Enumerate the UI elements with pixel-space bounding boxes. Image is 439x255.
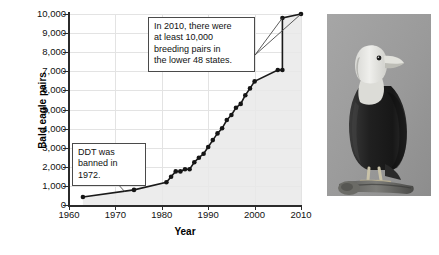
- y-axis-tick-mark: [63, 33, 68, 34]
- y-axis-tick-mark: [63, 205, 68, 206]
- y-axis-tick-mark: [63, 110, 68, 111]
- gridline-horizontal: [69, 90, 301, 91]
- annotation-2010-line-2: at least 10,000: [154, 32, 249, 43]
- y-axis-title: Bald eagle pairs: [37, 51, 48, 171]
- y-axis-tick-mark: [63, 129, 68, 130]
- annotation-2010-line-4: the lower 48 states.: [154, 55, 249, 66]
- x-axis-tick-label: 2010: [290, 209, 311, 220]
- x-axis-tick-mark: [115, 206, 116, 210]
- y-axis-tick-label: 0: [2, 200, 66, 210]
- x-axis-tick-mark: [208, 206, 209, 210]
- y-axis-tick-label: 10,000: [2, 9, 66, 19]
- x-axis-tick-label: 1960: [58, 209, 79, 220]
- y-axis-tick-label: 1,000: [2, 181, 66, 191]
- x-axis-tick-label: 1990: [198, 209, 219, 220]
- x-axis-tick-label: 2000: [244, 209, 265, 220]
- y-axis-tick-label: 6,000: [2, 85, 66, 95]
- x-axis-tick-label: 1980: [151, 209, 172, 220]
- y-axis-tick-mark: [63, 167, 68, 168]
- x-axis-tick-mark: [255, 206, 256, 210]
- gridline-vertical: [301, 14, 302, 205]
- y-axis-tick-label: 2,000: [2, 162, 66, 172]
- bald-eagle-photo: [327, 14, 431, 196]
- x-axis-title: Year: [69, 226, 301, 237]
- figure-root: 01,0002,0003,0004,0005,0006,0007,0008,00…: [0, 0, 439, 255]
- bald-eagle-illustration: [327, 14, 431, 196]
- y-axis-tick-mark: [63, 71, 68, 72]
- gridline-horizontal: [69, 129, 301, 130]
- x-axis-tick-mark: [162, 206, 163, 210]
- annotation-ddt-line-2: banned in 1972.: [78, 158, 140, 181]
- y-axis-tick-labels: 01,0002,0003,0004,0005,0006,0007,0008,00…: [0, 0, 66, 255]
- y-axis-tick-label: 5,000: [2, 105, 66, 115]
- y-axis-tick-label: 4,000: [2, 124, 66, 134]
- annotation-2010: In 2010, there were at least 10,000 bree…: [148, 17, 255, 72]
- y-axis-tick-mark: [63, 52, 68, 53]
- annotation-2010-line-3: breeding pairs in: [154, 44, 249, 55]
- gridline-horizontal: [69, 14, 301, 15]
- gridline-horizontal: [69, 110, 301, 111]
- annotation-ddt-line-1: DDT was: [78, 147, 140, 158]
- x-axis-tick-label: 1970: [105, 209, 126, 220]
- y-axis-tick-mark: [63, 148, 68, 149]
- y-axis-tick-label: 3,000: [2, 143, 66, 153]
- y-axis-tick-mark: [63, 186, 68, 187]
- y-axis-tick-label: 7,000: [2, 66, 66, 76]
- y-axis-tick-label: 8,000: [2, 47, 66, 57]
- x-axis-line: [68, 205, 302, 207]
- annotation-2010-line-1: In 2010, there were: [154, 21, 249, 32]
- y-axis-tick-label: 9,000: [2, 28, 66, 38]
- y-axis-tick-mark: [63, 90, 68, 91]
- x-axis-tick-mark: [69, 206, 70, 210]
- y-axis-line: [68, 12, 70, 207]
- x-axis-tick-mark: [301, 206, 302, 210]
- y-axis-tick-mark: [63, 14, 68, 15]
- annotation-ddt: DDT was banned in 1972.: [72, 143, 146, 186]
